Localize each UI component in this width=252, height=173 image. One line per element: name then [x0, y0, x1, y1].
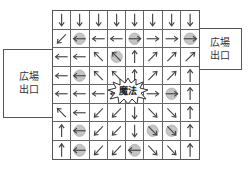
arrow-down-icon — [71, 11, 88, 29]
grid-cell — [90, 67, 108, 86]
arrow-left-icon — [71, 85, 88, 103]
grid-cell — [71, 122, 89, 141]
grid-cell — [126, 11, 144, 30]
right-exit-label-line2: 出口 — [199, 49, 241, 62]
grid-cell — [144, 141, 162, 160]
arrow-up-icon — [181, 104, 199, 122]
grid-cell — [181, 11, 199, 30]
grid-cell — [126, 104, 144, 123]
grid-cell — [53, 30, 71, 49]
arrow-down-icon — [126, 104, 143, 122]
arrow-up-right-icon — [163, 48, 180, 66]
grid-cell — [181, 122, 199, 141]
grid-cell — [126, 48, 144, 67]
arrow-down-left-icon — [108, 141, 125, 160]
grid-cell — [53, 67, 71, 86]
grid-cell — [71, 141, 89, 160]
grid-cell — [181, 141, 199, 160]
arrow-down-icon — [108, 11, 125, 29]
right-plaza-exit: 広場 出口 — [199, 28, 242, 70]
arrow-down-right-icon — [144, 141, 161, 160]
magic-label: 魔法 — [108, 84, 148, 97]
arrow-up-icon — [126, 48, 143, 66]
arrow-down-left-icon — [90, 122, 107, 140]
grid-cell — [71, 30, 89, 49]
grid-cell — [108, 30, 126, 49]
grid-cell — [71, 67, 89, 86]
arrow-up-right-icon — [181, 48, 199, 66]
grid-cell — [108, 48, 126, 67]
grid-cell — [90, 30, 108, 49]
arrow-down-right-icon — [163, 104, 180, 122]
arrow-up-icon — [181, 67, 199, 85]
grid-cell — [90, 104, 108, 123]
arrow-left-icon — [108, 30, 125, 48]
arrow-right-icon — [144, 30, 161, 48]
left-exit-label: 広場 出口 — [4, 70, 53, 96]
arrow-up-left-icon — [108, 48, 125, 66]
arrow-down-icon — [181, 11, 199, 29]
grid-cell — [181, 104, 199, 123]
grid-cell — [53, 11, 71, 30]
grid-cell — [90, 48, 108, 67]
grid-cell — [108, 141, 126, 160]
arrow-left-icon — [71, 48, 88, 66]
arrow-down-left-icon — [53, 30, 70, 48]
arrow-down-icon — [90, 11, 107, 29]
grid-cell — [181, 85, 199, 104]
arrow-left-icon — [71, 104, 88, 122]
grid-cell — [53, 48, 71, 67]
arrow-up-left-icon — [90, 48, 107, 66]
arrow-left-icon — [53, 48, 70, 66]
arrow-down-icon — [126, 11, 143, 29]
arrow-left-icon — [71, 141, 88, 160]
grid-cell — [163, 11, 181, 30]
arrow-right-icon — [163, 85, 180, 103]
arrow-up-icon — [181, 122, 199, 140]
grid-cell — [71, 48, 89, 67]
arrow-left-icon — [53, 67, 70, 85]
grid-cell — [108, 11, 126, 30]
grid-cell — [163, 141, 181, 160]
left-exit-label-line2: 出口 — [4, 83, 53, 96]
arrow-down-left-icon — [108, 122, 125, 140]
arrow-down-icon — [126, 122, 143, 140]
grid-cell — [163, 30, 181, 49]
right-exit-label-line1: 広場 — [199, 36, 241, 49]
left-plaza-exit: 広場 出口 — [3, 49, 54, 118]
arrow-up-left-icon — [90, 67, 107, 85]
arrow-left-icon — [126, 141, 143, 160]
arrow-down-right-icon — [144, 104, 161, 122]
arrow-up-icon — [181, 85, 199, 103]
arrow-left-icon — [71, 67, 88, 85]
grid-cell — [90, 85, 108, 104]
arrow-down-left-icon — [90, 104, 107, 122]
grid-cell — [108, 104, 126, 123]
arrow-left-icon — [53, 85, 70, 103]
grid-cell — [163, 104, 181, 123]
arrow-up-icon — [53, 122, 70, 140]
grid-cell — [163, 48, 181, 67]
grid-cell — [126, 122, 144, 141]
grid-cell — [71, 85, 89, 104]
grid-cell — [53, 104, 71, 123]
arrow-right-icon — [181, 30, 199, 48]
arrow-down-right-icon — [163, 122, 180, 140]
grid-cell — [144, 104, 162, 123]
arrow-down-right-icon — [144, 122, 161, 140]
arrow-up-right-icon — [163, 67, 180, 85]
grid-cell — [108, 122, 126, 141]
grid-cell — [144, 11, 162, 30]
grid-cell — [90, 11, 108, 30]
arrow-down-left-icon — [108, 104, 125, 122]
grid-cell — [181, 67, 199, 86]
grid-cell — [71, 104, 89, 123]
arrow-down-icon — [163, 11, 180, 29]
grid-cell — [71, 11, 89, 30]
grid-cell — [163, 67, 181, 86]
grid-cell — [144, 48, 162, 67]
grid-cell — [90, 122, 108, 141]
grid-cell — [53, 141, 71, 160]
arrow-left-icon — [90, 30, 107, 48]
arrow-right-icon — [126, 30, 143, 48]
